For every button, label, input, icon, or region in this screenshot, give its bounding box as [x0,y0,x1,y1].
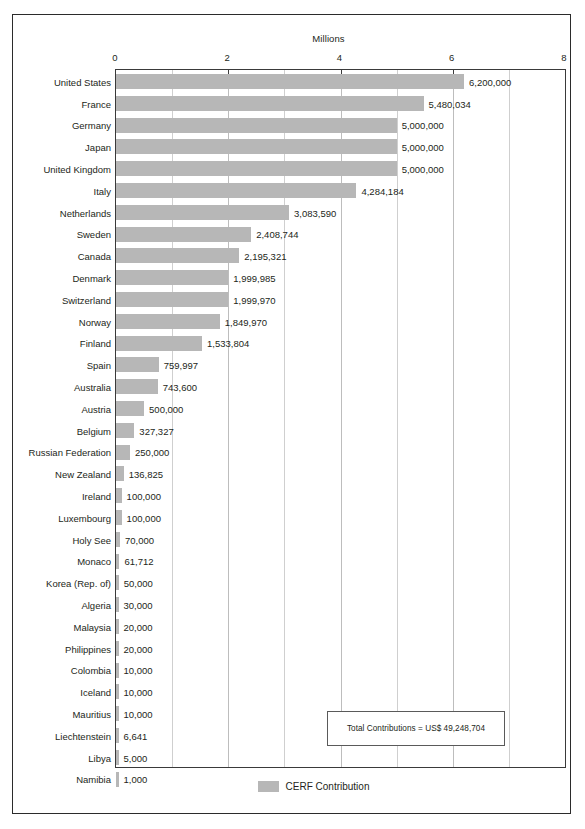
bar [116,706,119,721]
bar-row-label: Libya [88,752,111,763]
bar-value-label: 10,000 [124,665,153,676]
bar-row-label: Spain [87,360,111,371]
bar-row-label: Switzerland [62,294,111,305]
axis-title-label: Millions [312,33,344,44]
bar-value-label: 5,000,000 [402,142,444,153]
bar-row-label: Norway [79,316,111,327]
bar-row-label: Netherlands [60,207,111,218]
bar-row-label: Sweden [77,229,111,240]
bar-row: Belgium327,327 [116,420,565,442]
bar-row: Germany5,000,000 [116,115,565,137]
bar-value-label: 50,000 [124,578,153,589]
bar-value-label: 6,200,000 [469,76,511,87]
bar [116,357,159,372]
bar [116,248,239,263]
bar-row: Finland1,533,804 [116,333,565,355]
bar [116,96,424,111]
bar [116,619,119,634]
bar-value-label: 1,999,985 [233,273,275,284]
bar-row-label: Austria [81,403,111,414]
bar-row-label: Italy [94,185,111,196]
bar [116,161,397,176]
plot-area: United States6,200,000France5,480,034Ger… [115,69,566,768]
chart-figure: Millions 02468 United States6,200,000Fra… [12,14,571,814]
bar [116,139,397,154]
bar-row: Sweden2,408,744 [116,224,565,246]
bar-row: Japan5,000,000 [116,136,565,158]
bar-row: Luxembourg100,000 [116,507,565,529]
axis-title: Millions [13,33,570,44]
bar [116,205,289,220]
bar [116,728,119,743]
bar-row: Russian Federation250,000 [116,442,565,464]
x-tick-label-8: 8 [544,52,584,63]
bar-value-label: 3,083,590 [294,207,336,218]
legend-entry-label: CERF Contribution [286,781,370,792]
bar-row: Algeria30,000 [116,594,565,616]
bar-row-label: Korea (Rep. of) [46,578,111,589]
bar-row-label: New Zealand [55,469,111,480]
bar [116,466,124,481]
total-contributions-box: Total Contributions = US$ 49,248,704 [327,711,505,746]
bar-row: Iceland10,000 [116,681,565,703]
bar [116,488,122,503]
bar-value-label: 250,000 [135,447,169,458]
x-tick-label-6: 6 [432,52,472,63]
bar-row: Philippines20,000 [116,638,565,660]
bar [116,684,119,699]
legend-color-swatch [258,781,279,792]
bar [116,74,464,89]
x-axis-tick-labels: 02468 [115,52,564,66]
bar [116,597,119,612]
bar-value-label: 1,533,804 [207,338,249,349]
bar-row-label: Ireland [82,491,111,502]
bar [116,118,397,133]
bar-value-label: 20,000 [124,621,153,632]
bar-row: Ireland100,000 [116,485,565,507]
bar-value-label: 2,195,321 [244,251,286,262]
bar-value-label: 1,999,970 [233,294,275,305]
bar-row-label: United States [54,76,111,87]
bar-row: Libya5,000 [116,747,565,769]
bar [116,292,228,307]
bar-row-label: Belgium [77,425,111,436]
bar-value-label: 327,327 [139,425,173,436]
bar-row-label: Colombia [71,665,111,676]
bar [116,227,251,242]
bar-value-label: 100,000 [127,491,161,502]
bar-row-label: Japan [85,142,111,153]
bar-value-label: 500,000 [149,403,183,414]
bar-row-label: Liechtenstein [55,730,111,741]
bar [116,423,134,438]
bar-value-label: 5,000 [124,752,148,763]
bar-row-label: Monaco [77,556,111,567]
chart-legend: CERF Contribution [13,781,570,792]
bar-row-label: Australia [74,382,111,393]
bar-row: Australia743,600 [116,376,565,398]
bar [116,663,119,678]
bar-value-label: 5,000,000 [402,120,444,131]
bar [116,532,120,547]
bar-row: Denmark1,999,985 [116,267,565,289]
bar-row: Switzerland1,999,970 [116,289,565,311]
legend-entry: CERF Contribution [258,781,370,792]
x-tick-label-0: 0 [95,52,135,63]
bar-row-label: Finland [80,338,111,349]
bar-value-label: 5,480,034 [429,98,471,109]
bar-row: United States6,200,000 [116,71,565,93]
bar-row: Korea (Rep. of)50,000 [116,572,565,594]
x-tick-label-2: 2 [207,52,247,63]
bar-row-label: Iceland [80,687,111,698]
bar [116,641,119,656]
bar [116,575,119,590]
bar-value-label: 1,849,970 [225,316,267,327]
bar [116,750,119,765]
bar-row-label: United Kingdom [43,164,111,175]
bar-value-label: 4,284,184 [361,185,403,196]
bar-row: Norway1,849,970 [116,311,565,333]
bar-row-label: Algeria [81,600,111,611]
bar-value-label: 70,000 [125,534,154,545]
bar-row: Malaysia20,000 [116,616,565,638]
bar-row-label: Denmark [72,273,111,284]
bar [116,183,356,198]
